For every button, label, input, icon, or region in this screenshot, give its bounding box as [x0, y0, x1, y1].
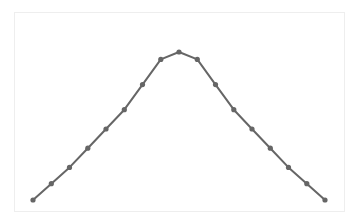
line-chart: [0, 0, 359, 221]
data-point: [231, 107, 236, 112]
data-point: [268, 146, 273, 151]
data-point: [49, 181, 54, 186]
data-point: [176, 49, 181, 54]
data-point: [122, 107, 127, 112]
data-point: [322, 197, 327, 202]
data-point: [304, 181, 309, 186]
data-point: [286, 165, 291, 170]
data-point: [140, 82, 145, 87]
data-point: [158, 57, 163, 62]
data-point: [249, 126, 254, 131]
data-point: [195, 57, 200, 62]
data-point: [85, 146, 90, 151]
data-point: [103, 126, 108, 131]
plot-frame: [15, 13, 345, 212]
data-point: [30, 197, 35, 202]
data-point: [67, 165, 72, 170]
data-point: [213, 82, 218, 87]
